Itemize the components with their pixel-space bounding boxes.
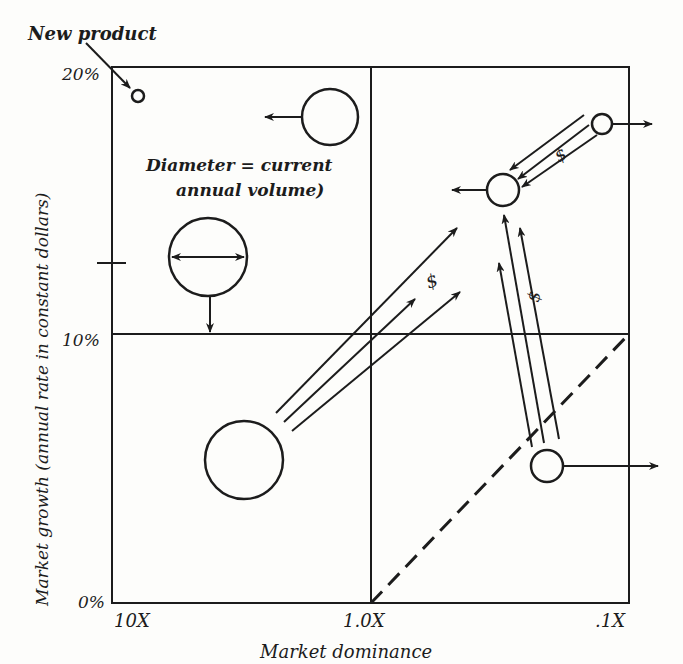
legend-line-2: annual volume) — [176, 180, 324, 200]
legend-line-1: Diameter = current — [145, 155, 333, 175]
small-circle-top-right — [592, 114, 612, 134]
problem-child-circle — [302, 89, 358, 145]
star-circle — [487, 174, 519, 206]
y-tick-10: 10% — [62, 330, 100, 350]
new-product-circle — [132, 90, 144, 102]
dog-circle — [531, 450, 563, 482]
cash-cow-circle — [205, 421, 283, 499]
dollar-sign: $ — [523, 289, 545, 304]
cash-flow-arrow — [292, 292, 460, 431]
x-tick-01x: .1X — [595, 610, 626, 631]
y-axis-title: Market growth (annual rate in constant d… — [32, 193, 52, 607]
new-product-label: New product — [27, 23, 157, 44]
growth-share-diagram: $ $ $ New product Diameter = current ann… — [0, 0, 683, 664]
x-axis-title: Market dominance — [259, 641, 432, 662]
y-tick-20: 20% — [61, 64, 100, 84]
dollar-sign: $ — [423, 269, 441, 293]
x-tick-1x: 1.0X — [343, 610, 386, 631]
x-tick-10x: 10X — [114, 610, 151, 631]
dashed-diagonal — [371, 334, 629, 603]
cash-flow-arrow — [510, 115, 584, 170]
cash-flow-arrow — [276, 228, 457, 413]
y-tick-0: 0% — [78, 592, 105, 612]
cash-flow-arrow — [284, 299, 415, 422]
